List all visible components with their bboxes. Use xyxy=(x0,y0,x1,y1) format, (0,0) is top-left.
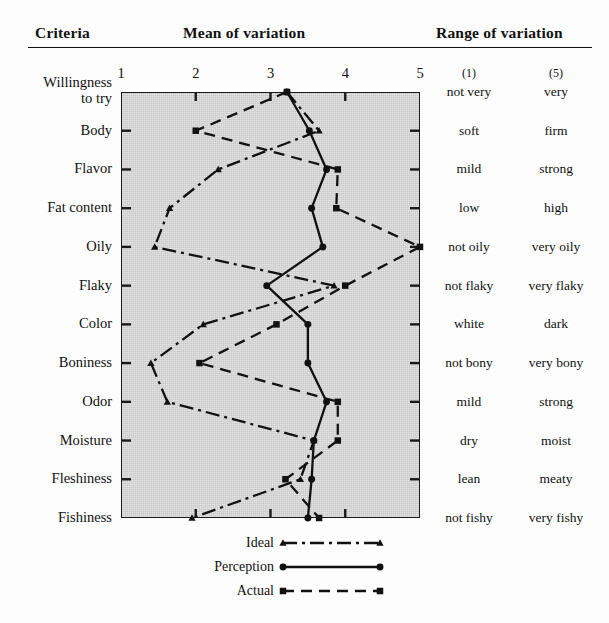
range-low-odor: mild xyxy=(457,394,482,410)
range-high-willingness-to-try: very xyxy=(544,84,568,100)
range-low-body: soft xyxy=(459,123,479,139)
criteria-label-fishiness: Fishiness xyxy=(58,510,112,525)
range-low-moisture: dry xyxy=(460,433,478,449)
range-high-header: (5) xyxy=(549,66,563,81)
legend-key-actual xyxy=(280,588,383,594)
legend-marker-start-actual xyxy=(280,588,286,594)
chart-plot-area xyxy=(121,92,420,518)
range-high-odor: strong xyxy=(539,394,573,410)
range-low-oily: not oily xyxy=(448,239,490,255)
range-high-flaky: very flaky xyxy=(528,278,583,294)
column-header-range-of-variation: Range of variation xyxy=(436,24,563,42)
criteria-label-odor: Odor xyxy=(82,394,112,409)
range-high-color: dark xyxy=(544,316,568,332)
criteria-label-fleshiness: Fleshiness xyxy=(52,471,112,486)
axis-tick-3: 3 xyxy=(267,65,274,82)
criteria-label-moisture: Moisture xyxy=(60,433,112,448)
legend-key-perception xyxy=(280,564,384,571)
range-low-fat-content: low xyxy=(459,200,479,216)
range-high-moisture: moist xyxy=(541,433,571,449)
criteria-label-fat-content: Fat content xyxy=(47,200,112,215)
criteria-label-oily: Oily xyxy=(86,239,112,254)
legend-marker-end-ideal xyxy=(376,539,383,545)
criteria-label-body: Body xyxy=(81,123,112,138)
range-low-willingness-to-try: not very xyxy=(447,84,492,100)
criteria-label-flavor: Flavor xyxy=(74,161,112,176)
legend-label-perception: Perception xyxy=(214,559,274,575)
legend-marker-start-ideal xyxy=(279,539,286,545)
range-low-header: (1) xyxy=(462,66,476,81)
column-header-mean-of-variation: Mean of variation xyxy=(183,24,305,42)
column-header-criteria: Criteria xyxy=(35,24,90,42)
range-high-fleshiness: meaty xyxy=(540,471,573,487)
range-high-fishiness: very fishy xyxy=(529,510,583,526)
range-high-fat-content: high xyxy=(544,200,568,216)
axis-tick-2: 2 xyxy=(192,65,199,82)
range-low-flaky: not flaky xyxy=(445,278,493,294)
range-low-flavor: mild xyxy=(457,161,482,177)
axis-tick-4: 4 xyxy=(342,65,349,82)
criteria-label-flaky: Flaky xyxy=(79,278,112,293)
legend-key-ideal xyxy=(279,539,383,545)
legend-label-actual: Actual xyxy=(237,583,274,599)
range-low-color: white xyxy=(454,316,484,332)
range-high-flavor: strong xyxy=(539,161,573,177)
criteria-label-willingness-to-try: Willingnessto try xyxy=(43,75,112,106)
range-high-oily: very oily xyxy=(532,239,580,255)
criteria-label-boniness: Boniness xyxy=(59,355,112,370)
legend-marker-start-perception xyxy=(280,564,287,571)
criteria-label-color: Color xyxy=(79,316,112,331)
header-divider-rule xyxy=(28,47,592,48)
range-high-boniness: very bony xyxy=(529,355,583,371)
legend-marker-end-actual xyxy=(377,588,383,594)
legend-label-ideal: Ideal xyxy=(246,535,274,551)
figure-root: Criteria Mean of variation Range of vari… xyxy=(0,0,609,623)
legend-marker-end-perception xyxy=(377,564,384,571)
axis-tick-1: 1 xyxy=(117,65,124,82)
axis-tick-5: 5 xyxy=(416,65,423,82)
range-low-fishiness: not fishy xyxy=(445,510,493,526)
range-low-boniness: not bony xyxy=(445,355,493,371)
range-high-body: firm xyxy=(544,123,567,139)
range-low-fleshiness: lean xyxy=(458,471,481,487)
